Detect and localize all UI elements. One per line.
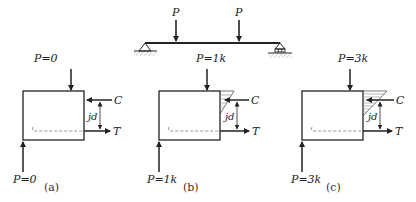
lever-arm-label: jd	[223, 111, 235, 122]
roller-support-icon	[268, 43, 292, 58]
panel-b: P=1k P=1k C T jd (b)	[146, 52, 261, 194]
beam-free-body-diagram: P P P=0 P=0 C T jd (a) P=1k	[0, 0, 416, 202]
load-label-left: P	[171, 6, 180, 19]
compression-label: C	[396, 94, 405, 107]
panel-caption: (a)	[44, 181, 59, 194]
top-load-label: P=3k	[337, 52, 369, 65]
compression-label: C	[251, 94, 260, 107]
panel-a: P=0 P=0 C T jd (a)	[12, 52, 123, 194]
section-box	[302, 91, 363, 140]
bottom-load-label: P=0	[12, 173, 37, 186]
panel-caption: (c)	[326, 181, 341, 194]
load-arrow-right: P	[234, 6, 243, 41]
top-load-label: P=1k	[195, 52, 227, 65]
lever-arm-label: jd	[366, 111, 378, 122]
bottom-load-label: P=3k	[290, 173, 322, 186]
tension-label: T	[252, 125, 261, 138]
rebar-dashed	[168, 127, 220, 131]
lever-arm-label: jd	[86, 111, 98, 122]
tension-label: T	[395, 125, 404, 138]
load-label-right: P	[234, 6, 243, 19]
beam-schematic: P P	[134, 6, 292, 58]
section-box	[159, 91, 220, 140]
section-box	[23, 91, 84, 140]
rebar-dashed	[32, 127, 84, 131]
rebar-dashed	[311, 127, 363, 131]
load-arrow-left: P	[171, 6, 180, 41]
compression-label: C	[114, 94, 123, 107]
bottom-load-label: P=1k	[146, 173, 178, 186]
top-load-label: P=0	[33, 52, 58, 65]
panel-caption: (b)	[183, 181, 199, 194]
tension-label: T	[113, 125, 122, 138]
panel-c: P=3k P=3k C T jd (c)	[290, 52, 405, 194]
pin-support-icon	[134, 43, 157, 56]
